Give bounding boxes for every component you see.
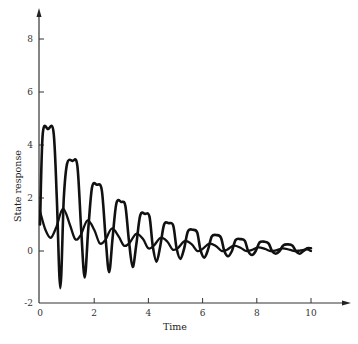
x-axis-title: Time bbox=[163, 321, 187, 332]
ticks: 0246810-202468 bbox=[24, 34, 317, 318]
series bbox=[40, 126, 311, 288]
x-tick-label: 2 bbox=[91, 308, 97, 318]
series-line-1 bbox=[40, 126, 311, 288]
y-axis-arrow-icon bbox=[37, 8, 42, 17]
y-tick-label: 0 bbox=[27, 246, 33, 256]
y-tick-label: 6 bbox=[27, 87, 33, 97]
x-tick-label: 4 bbox=[146, 308, 152, 318]
y-tick-label: 4 bbox=[27, 140, 33, 150]
x-tick-label: 8 bbox=[254, 308, 260, 318]
y-tick-label: 2 bbox=[27, 193, 33, 203]
x-tick-label: 6 bbox=[200, 308, 206, 318]
state-response-chart: 0246810-202468 Time State response bbox=[0, 0, 358, 344]
y-tick-label: 8 bbox=[27, 34, 33, 44]
y-axis-title: State response bbox=[12, 150, 23, 222]
x-tick-label: 10 bbox=[305, 308, 317, 318]
y-tick-label: -2 bbox=[24, 298, 33, 308]
x-axis-arrow-icon bbox=[342, 301, 351, 306]
x-tick-label: 0 bbox=[37, 308, 43, 318]
